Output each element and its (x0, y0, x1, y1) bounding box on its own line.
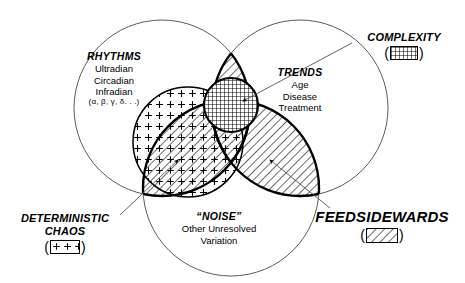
rhythms-item-0: Ultradian (60, 63, 168, 74)
label-noise: “NOISE” Other Unresolved Variation (158, 210, 280, 246)
diagonal-hatch-icon (366, 228, 398, 243)
complexity-label: COMPLEXITY (352, 31, 456, 44)
chaos-open-paren: ( (44, 240, 49, 254)
noise-item-1: Variation (158, 235, 280, 246)
circle-complexity (204, 78, 258, 132)
label-trends: TRENDS Age Disease Treatment (252, 66, 348, 113)
label-rhythms: RHYTHMS Ultradian Circadian Infradian (α… (60, 50, 168, 106)
rhythms-item-2: Infradian (60, 86, 168, 97)
trends-item-1: Disease (252, 91, 348, 102)
feedsidewards-swatch-row: ( ) (306, 228, 458, 243)
legend-complexity: COMPLEXITY ( ) (352, 31, 456, 60)
diagram-canvas: RHYTHMS Ultradian Circadian Infradian (α… (0, 0, 465, 283)
trends-heading: TRENDS (252, 66, 348, 78)
legend-feedsidewards: FEEDSIDEWARDS ( ) (306, 208, 458, 243)
chaos-close-paren: ) (81, 240, 86, 254)
cross-hatch-grid-icon (390, 46, 418, 60)
noise-heading: “NOISE” (158, 210, 280, 222)
complexity-close-paren: ) (419, 46, 424, 60)
noise-item-0: Other Unresolved (158, 223, 280, 234)
chaos-swatch-row: ( ) (6, 240, 124, 254)
rhythms-heading: RHYTHMS (60, 50, 168, 62)
feedsidewards-label: FEEDSIDEWARDS (306, 208, 458, 226)
chaos-label-line1: DETERMINISTIC (6, 212, 124, 225)
rhythms-greek-series: (α, β, γ, δ. . .) (60, 97, 168, 106)
complexity-open-paren: ( (384, 46, 389, 60)
complexity-swatch-row: ( ) (352, 46, 456, 60)
legend-deterministic-chaos: DETERMINISTIC CHAOS ( ) (6, 212, 124, 254)
feedsidewards-open-paren: ( (360, 228, 365, 242)
rhythms-item-1: Circadian (60, 75, 168, 86)
chaos-label-line2: CHAOS (6, 225, 124, 238)
feedsidewards-close-paren: ) (399, 228, 404, 242)
plus-marks-icon (50, 240, 80, 254)
trends-item-2: Treatment (252, 102, 348, 113)
trends-item-0: Age (252, 79, 348, 90)
